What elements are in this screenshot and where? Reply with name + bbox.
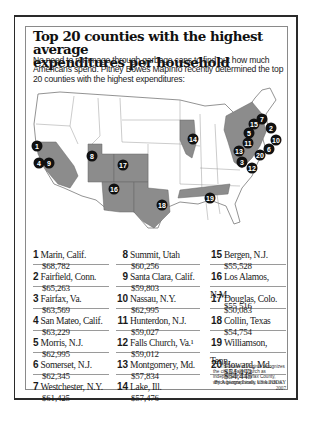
us-map: 1 4 9 8 17 16 18 14 19 15 7 2 5 10 11 13… bbox=[30, 84, 285, 234]
marker-17: 17 bbox=[118, 160, 129, 171]
marker-11: 11 bbox=[243, 138, 254, 149]
byline: By Adrienne Lewis, USA TODAY 2007 bbox=[214, 379, 286, 391]
list-item: 7Westchester, N.Y.$61,425 bbox=[33, 375, 109, 396]
marker-12: 12 bbox=[247, 163, 258, 174]
svg-text:7: 7 bbox=[260, 116, 264, 123]
list-column-3: 15Bergen, N.J.$55,528 16Los Alamos, N.M.… bbox=[210, 243, 286, 375]
svg-text:15: 15 bbox=[250, 121, 258, 128]
list-item: 5Morris, N.J.$62,995 bbox=[33, 331, 109, 353]
list-column-2: 8Summit, Utah$60,256 9Santa Clara, Calif… bbox=[116, 243, 200, 396]
list-item: 2Fairfield, Conn.$65,263 bbox=[33, 265, 109, 287]
marker-8: 8 bbox=[87, 151, 98, 162]
svg-text:1: 1 bbox=[35, 143, 39, 150]
svg-text:19: 19 bbox=[206, 195, 214, 202]
list-item: 17Douglas, Colo.$50,083 bbox=[210, 287, 286, 309]
svg-text:11: 11 bbox=[244, 140, 252, 147]
list-item: 3Fairfax, Va.$63,569 bbox=[33, 287, 109, 309]
marker-4: 4 bbox=[34, 158, 45, 169]
marker-10: 10 bbox=[271, 135, 282, 146]
marker-18: 18 bbox=[157, 200, 168, 211]
list-item: 13Montgomery, Md.$57,834 bbox=[116, 353, 200, 375]
marker-14: 14 bbox=[188, 134, 199, 145]
marker-2: 2 bbox=[266, 123, 277, 134]
marker-7: 7 bbox=[257, 114, 268, 125]
list-column-1: 1Marin, Calif.$68,782 2Fairfield, Conn.$… bbox=[33, 243, 109, 396]
svg-text:3: 3 bbox=[240, 159, 244, 166]
list-item: 1Marin, Calif.$68,782 bbox=[33, 243, 109, 265]
byline-year: 2007 bbox=[214, 385, 286, 391]
list-item: 11Hunterdon, N.J.$59,027 bbox=[116, 309, 200, 331]
list-item: 4San Mateo, Calif.$63,229 bbox=[33, 309, 109, 331]
marker-20-pointer: 20 bbox=[255, 150, 266, 161]
svg-text:13: 13 bbox=[235, 148, 243, 155]
marker-1: 1 bbox=[32, 141, 43, 152]
list-item: 14Lake, Ill.$57,476 bbox=[116, 375, 200, 396]
intro-text: No need to rummage through garbage cans … bbox=[33, 56, 285, 84]
svg-text:2: 2 bbox=[269, 125, 273, 132]
marker-6: 6 bbox=[264, 144, 275, 155]
marker-16: 16 bbox=[109, 184, 120, 195]
marker-5: 5 bbox=[244, 128, 255, 139]
list-item: 8Summit, Utah$60,256 bbox=[116, 243, 200, 265]
svg-text:20: 20 bbox=[256, 152, 264, 159]
svg-text:12: 12 bbox=[248, 165, 256, 172]
svg-text:6: 6 bbox=[267, 146, 271, 153]
svg-text:5: 5 bbox=[247, 130, 251, 137]
list-item: 12Falls Church, Va.¹$59,012 bbox=[116, 331, 200, 353]
svg-text:16: 16 bbox=[110, 186, 118, 193]
marker-19: 19 bbox=[205, 193, 216, 204]
marker-9: 9 bbox=[44, 158, 55, 169]
svg-text:4: 4 bbox=[37, 160, 41, 167]
svg-text:14: 14 bbox=[189, 136, 197, 143]
svg-text:18: 18 bbox=[158, 202, 166, 209]
list-item: 9Santa Clara, Calif.$59,803 bbox=[116, 265, 200, 287]
list-item: 6Somerset, N.J.$62,345 bbox=[33, 353, 109, 375]
list-item: 15Bergen, N.J.$55,528 bbox=[210, 243, 286, 265]
marker-13: 13 bbox=[234, 146, 245, 157]
svg-text:9: 9 bbox=[47, 160, 51, 167]
list-item: 10Nassau, N.Y.$62,995 bbox=[116, 287, 200, 309]
svg-text:17: 17 bbox=[119, 162, 127, 169]
list-item: 16Los Alamos, N.M.$55,516 bbox=[210, 265, 286, 287]
list-item: 19Williamson, Tenn.$54,493 bbox=[210, 331, 286, 353]
marker-3: 3 bbox=[237, 157, 248, 168]
svg-text:10: 10 bbox=[272, 137, 280, 144]
title-line-1: Top 20 counties with the highest average bbox=[33, 30, 283, 56]
list-item: 18Collin, Texas$54,754 bbox=[210, 309, 286, 331]
svg-text:8: 8 bbox=[90, 153, 94, 160]
